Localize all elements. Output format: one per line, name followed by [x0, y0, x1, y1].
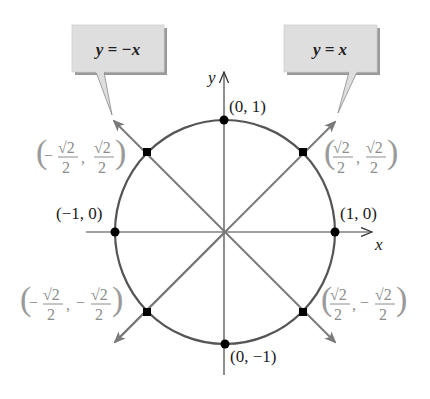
- unit-circle-diagram: y = −x y = x x y (0, 1) (0, −1) (−1, 0) …: [0, 0, 430, 399]
- num-y: √2: [366, 139, 383, 156]
- num-y: √2: [91, 286, 108, 303]
- x-axis-label: x: [374, 235, 383, 254]
- point-bottom-dot: [221, 340, 230, 349]
- point-right-dot: [331, 228, 340, 237]
- num-x: √2: [333, 139, 350, 156]
- num-y: √2: [94, 139, 111, 156]
- den-x: 2: [62, 159, 70, 176]
- paren-close: ): [112, 280, 123, 318]
- sign-x: −: [44, 147, 53, 164]
- line-y-equals-neg-x-lower: [225, 232, 335, 342]
- point-right-label: (1, 0): [340, 204, 377, 223]
- point-top-label: (0, 1): [229, 97, 266, 116]
- svg-text:,: ,: [356, 149, 360, 166]
- point-left-label: (−1, 0): [56, 204, 102, 223]
- callout-tail: [338, 72, 357, 113]
- den-x: 2: [334, 306, 342, 323]
- point-lower-left-dot: [143, 308, 151, 316]
- sign-x: −: [29, 294, 38, 311]
- num-x: √2: [330, 286, 347, 303]
- line-y-equals-x-lower: [115, 232, 225, 342]
- num-x: √2: [43, 286, 60, 303]
- y-axis-label: y: [206, 68, 216, 87]
- den-y: 2: [95, 306, 103, 323]
- point-lower-left-label: ( − √2 2 , − √2 2 ): [20, 280, 123, 323]
- svg-text:,: ,: [352, 296, 356, 313]
- callout-y-equals-neg-x: y = −x: [72, 25, 167, 115]
- paren-close: ): [387, 133, 398, 171]
- den-x: 2: [337, 159, 345, 176]
- den-y: 2: [98, 159, 106, 176]
- callout-y-equals-x: y = x: [284, 25, 380, 113]
- paren-close: ): [115, 133, 126, 171]
- point-lower-right-label: ( √2 2 , − √2 2 ): [321, 280, 407, 323]
- point-upper-left-dot: [143, 148, 151, 156]
- point-upper-right-label: ( √2 2 , √2 2 ): [324, 133, 398, 176]
- point-bottom-label: (0, −1): [230, 347, 276, 366]
- callout-tail: [96, 72, 112, 115]
- sign-y: −: [360, 294, 369, 311]
- point-upper-left-label: ( − √2 2 , √2 2 ): [36, 133, 126, 176]
- den-x: 2: [47, 306, 55, 323]
- point-upper-right-dot: [299, 148, 307, 156]
- sign-y: −: [76, 294, 85, 311]
- den-y: 2: [379, 306, 387, 323]
- point-lower-right-dot: [299, 308, 307, 316]
- num-y: √2: [375, 286, 392, 303]
- num-x: √2: [58, 139, 75, 156]
- paren-close: ): [396, 280, 407, 318]
- den-y: 2: [370, 159, 378, 176]
- point-left-dot: [111, 228, 120, 237]
- callout-label: y = −x: [94, 40, 141, 59]
- point-top-dot: [220, 116, 229, 125]
- svg-text:,: ,: [66, 296, 70, 313]
- callout-label: y = x: [311, 40, 348, 59]
- svg-text:,: ,: [81, 149, 85, 166]
